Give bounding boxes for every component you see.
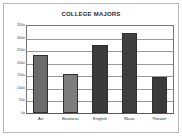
x-tick-label: Business: [56, 116, 86, 121]
y-tick-mark: [23, 62, 25, 63]
y-tick-mark: [23, 87, 25, 88]
y-tick-mark: [23, 37, 25, 38]
bar-business: [63, 74, 78, 113]
bar-english: [92, 45, 107, 113]
y-tick-mark: [23, 75, 25, 76]
chart-title: COLLEGE MAJORS: [4, 11, 178, 17]
y-tick-mark: [23, 113, 25, 114]
x-tick-label: Theater: [144, 116, 174, 121]
x-tick-label: Art: [26, 116, 56, 121]
x-axis: ArtBusinessEnglishMusicTheater: [26, 116, 174, 126]
x-tick-label: Music: [115, 116, 145, 121]
bar-series: [26, 25, 174, 113]
y-tick-mark: [23, 50, 25, 51]
x-tick-label: English: [85, 116, 115, 121]
chart-frame: COLLEGE MAJORS 050100150200250300350 Art…: [3, 3, 179, 133]
y-axis: 050100150200250300350: [4, 25, 25, 114]
y-tick-mark: [23, 100, 25, 101]
bar-theater: [152, 77, 167, 113]
bar-art: [33, 55, 48, 113]
y-tick-mark: [23, 25, 25, 26]
bar-music: [122, 33, 137, 113]
